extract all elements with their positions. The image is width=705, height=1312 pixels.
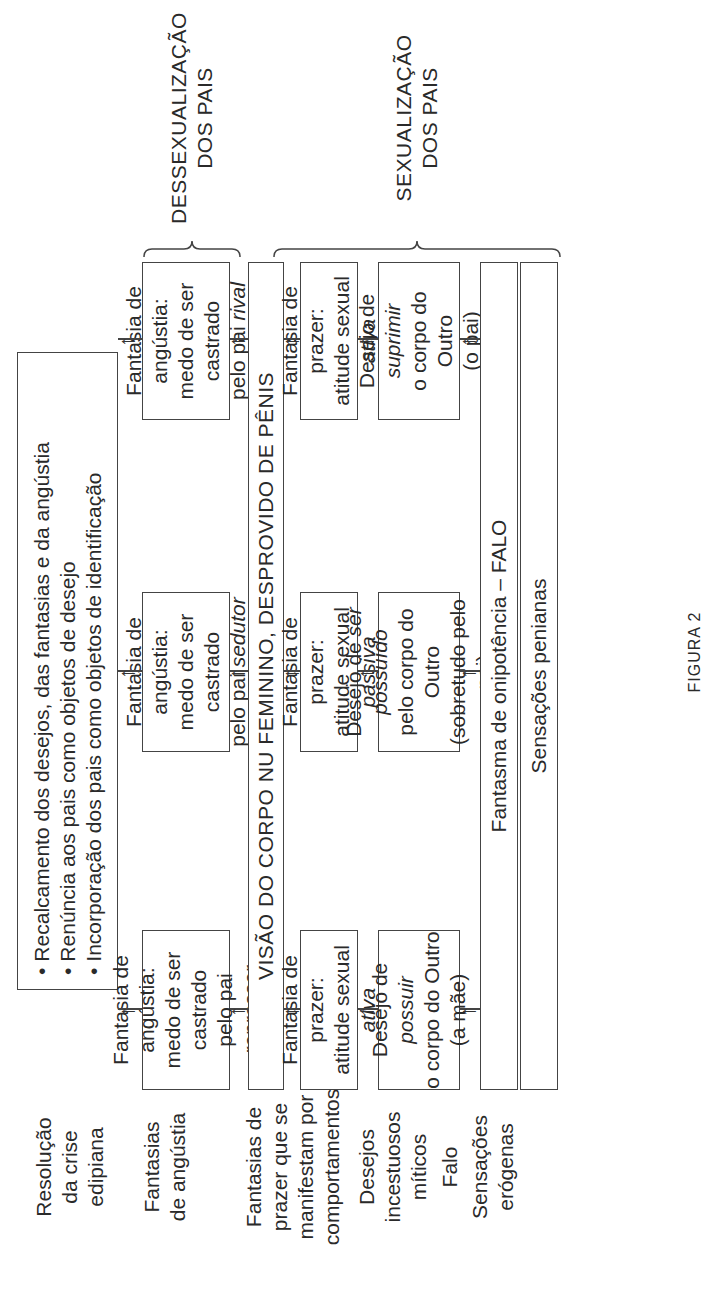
angustia-box-repressor: Fantasia de angústia: medo de ser castra… <box>142 930 230 1090</box>
arrow-up-icon: ↑ <box>226 1006 248 1017</box>
desejo-box-ser-possuido: Desejo de ser possuído pelo corpo do Out… <box>378 592 460 752</box>
box-line: medo de ser castrado <box>173 593 225 751</box>
arrow-up-icon: ↑ <box>355 336 377 347</box>
label-line: manifestam por <box>293 1095 319 1240</box>
label-line: comportamentos <box>319 1089 345 1245</box>
label-line: Resolução <box>31 1117 57 1216</box>
box-line: o corpo do Outro <box>419 931 445 1089</box>
resolucao-item: Recalcamento dos desejos, das fantasias … <box>29 442 55 975</box>
box-line: medo de ser castrado <box>173 263 225 419</box>
resolucao-item: Renúncia aos pais como objetos de desejo <box>55 561 81 975</box>
angustia-box-sedutor: Fantasia de angústia: medo de ser castra… <box>142 592 230 752</box>
label-line: da crise <box>57 1130 83 1204</box>
label-line: Falo <box>437 1147 463 1188</box>
arrow-up-icon: ↑ <box>116 668 138 679</box>
label-line: de angústia <box>165 1113 191 1222</box>
text: atitude sexual <box>330 276 353 406</box>
label-line: prazer que se <box>267 1103 293 1231</box>
italic-text: rival <box>226 282 249 321</box>
bar-text: Sensações penianas <box>526 579 552 774</box>
text: Desejo de <box>342 636 365 736</box>
text: atitude sexual <box>330 945 353 1075</box>
falo-bar: Fantasma de onipotência – FALO <box>480 262 518 1090</box>
desejo-box-suprimir: Desejo de suprimir o corpo do Outro (o p… <box>378 262 460 420</box>
label-line: DESSEXUALIZAÇÃO <box>166 12 192 224</box>
brace-dessexualizacao-icon <box>142 235 242 259</box>
bar-text: VISÃO DO CORPO NU FEMININO, DESPROVIDO D… <box>253 372 279 980</box>
resolucao-item: Incorporação dos pais como objetos de id… <box>81 473 107 976</box>
brace-sexualizacao-icon <box>272 235 562 259</box>
text: pelo pai <box>226 667 249 746</box>
arrow-up-icon: ↑ <box>280 336 302 347</box>
box-line: medo de ser castrado <box>160 931 212 1089</box>
figure-caption: FIGURA 2 <box>680 552 705 752</box>
arrow-up-icon: ↑ <box>457 668 479 679</box>
box-line: o corpo do Outro <box>406 263 458 419</box>
bar-text: Fantasma de onipotência – FALO <box>486 520 512 833</box>
desejo-box-possuir: Desejo de possuir o corpo do Outro (a mã… <box>378 930 460 1090</box>
label-line: DOS PAIS <box>417 67 443 169</box>
label-sexualizacao: SEXUALIZAÇÃO DOS PAIS <box>375 0 459 236</box>
text: pelo pai <box>226 321 249 400</box>
caption-text: FIGURA 2 <box>682 612 705 693</box>
label-line: erógenas <box>493 1123 519 1211</box>
label-line: míticos <box>406 1134 432 1201</box>
label-dessexualizacao: DESSEXUALIZAÇÃO DOS PAIS <box>150 0 234 236</box>
arrow-up-icon: ↑ <box>280 1006 302 1017</box>
italic-text: sedutor <box>226 597 249 667</box>
angustia-box-rival: Fantasia de angústia: medo de ser castra… <box>142 262 230 420</box>
resolucao-box: Recalcamento dos desejos, das fantasias … <box>17 352 118 990</box>
label-line: Fantasias <box>139 1121 165 1212</box>
label-line: SEXUALIZAÇÃO <box>391 34 417 201</box>
prazer-box-ativa: Fantasia de prazer: atitude sexual ativa <box>300 930 358 1090</box>
arrow-up-icon: ↑ <box>457 336 479 347</box>
label-line: Desejos <box>354 1129 380 1205</box>
arrow-up-icon: ↑ <box>355 1006 377 1017</box>
arrow-up-icon: ↑ <box>457 1006 479 1017</box>
label-line: Fantasias de <box>241 1107 267 1227</box>
label-line: Sensações <box>467 1115 493 1219</box>
italic-text: suprimir <box>381 304 404 379</box>
arrow-up-icon: ↑ <box>226 336 248 347</box>
italic-text: possuir <box>394 976 417 1044</box>
label-line: incestuosos <box>380 1112 406 1223</box>
label-line: DOS PAIS <box>192 67 218 169</box>
label-line: edipiana <box>83 1127 109 1206</box>
sensacoes-bar: Sensações penianas <box>520 262 558 1090</box>
arrow-up-icon: ↑ <box>116 1006 138 1017</box>
prazer-box-ativa-2: Fantasia de prazer: atitude sexual ativa <box>300 262 358 420</box>
box-line: pelo corpo do Outro <box>393 593 445 751</box>
arrow-up-icon: ↑ <box>280 668 302 679</box>
arrow-up-icon: ↑ <box>355 668 377 679</box>
arrow-up-icon: ↑ <box>116 336 138 347</box>
arrow-up-icon: ↑ <box>226 668 248 679</box>
